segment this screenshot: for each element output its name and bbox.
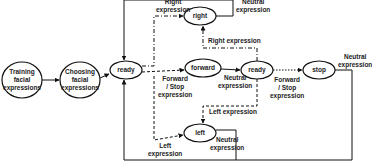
edge-forward-ready2 bbox=[221, 69, 240, 70]
label-neutral-bottom: Neutral expression bbox=[210, 136, 244, 152]
node-training-line-1: Training bbox=[9, 68, 34, 76]
node-choosing-line-2: facial bbox=[72, 76, 89, 84]
edge-choosing-ready bbox=[100, 74, 109, 78]
label-right-expression-mid: Right expression bbox=[208, 37, 261, 45]
label-line: expression bbox=[156, 6, 190, 14]
label-line: Neutral bbox=[218, 74, 252, 82]
label-line: expression bbox=[148, 150, 182, 158]
label-line: expression bbox=[158, 91, 192, 99]
node-stop-label: stop bbox=[303, 62, 335, 78]
label-left-expression-bottom: Left expression bbox=[148, 142, 182, 158]
label-line: / Stop bbox=[158, 83, 192, 91]
label-line: expression bbox=[270, 92, 304, 100]
label-line: Left bbox=[148, 142, 182, 150]
label-line: Forward bbox=[158, 75, 192, 83]
label-forward-stop-2: Forward / Stop expression bbox=[270, 76, 304, 100]
node-training-label: Training facial expressions bbox=[2, 66, 42, 94]
node-choosing-line-1: Choosing bbox=[65, 68, 95, 76]
label-forward-stop-1: Forward / Stop expression bbox=[158, 75, 192, 99]
label-right-expression-top: Right expression bbox=[156, 0, 190, 14]
label-neutral-right: Neutral expression bbox=[338, 53, 372, 69]
node-training-line-2: facial bbox=[14, 76, 31, 84]
label-line: Neutral bbox=[210, 136, 244, 144]
node-ready-1-label: ready bbox=[110, 62, 142, 78]
label-line: Forward bbox=[270, 76, 304, 84]
label-line: / Stop bbox=[270, 84, 304, 92]
label-neutral-top: Neutral expression bbox=[236, 0, 270, 14]
node-choosing-label: Choosing facial expressions bbox=[60, 66, 100, 94]
edge-ready1-right bbox=[142, 16, 183, 66]
label-left-expression-mid: Left expression bbox=[209, 108, 257, 116]
node-forward-label: forward bbox=[185, 60, 221, 76]
node-training-line-3: expressions bbox=[3, 84, 41, 92]
label-line: Neutral bbox=[338, 53, 372, 61]
edge-ready1-forward bbox=[142, 70, 184, 72]
label-line: expression bbox=[218, 82, 252, 90]
label-line: expression bbox=[210, 144, 244, 152]
label-line: expression bbox=[338, 61, 372, 69]
node-choosing-line-3: expressions bbox=[61, 84, 99, 92]
label-neutral-mid: Neutral expression bbox=[218, 74, 252, 90]
label-line: expression bbox=[236, 6, 270, 14]
